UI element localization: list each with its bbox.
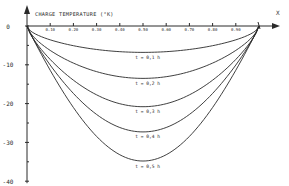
x-tick-label: 0.20 — [69, 27, 79, 32]
x-axis-label: X — [276, 9, 280, 16]
temperature-profile-chart: 0-10-20-30-400.100.200.300.400.500.600.7… — [0, 0, 289, 186]
x-tick-label: 0.50 — [138, 27, 148, 32]
curve-5 — [27, 26, 259, 161]
x-tick-label: 0.10 — [45, 27, 55, 32]
axes — [24, 5, 280, 183]
y-tick-label: -10 — [3, 61, 14, 68]
labels: 0-10-20-30-400.100.200.300.400.500.600.7… — [3, 9, 280, 185]
curve-label: t = 0,2 h — [135, 81, 160, 86]
x-tick-label: 0.70 — [185, 27, 195, 32]
y-tick-label: 0 — [6, 23, 10, 30]
curve-4 — [27, 26, 259, 132]
y-tick-label: -40 — [3, 178, 14, 185]
chart-title: CHARGE TEMPERATURE (°K) — [35, 11, 114, 17]
x-tick-label: 0.80 — [208, 27, 218, 32]
x-tick-label: 0.40 — [115, 27, 125, 32]
curve-label: t = 0,1 h — [135, 55, 160, 60]
x-axis-arrow-icon — [272, 23, 280, 29]
curve-label: t = 0,5 h — [135, 164, 160, 169]
curve-label: t = 0,3 h — [135, 109, 160, 114]
y-tick-label: -30 — [3, 139, 14, 146]
x-tick-label: 0.90 — [231, 27, 241, 32]
curve-label: t = 0,4 h — [135, 134, 160, 139]
x-tick-label: 0.60 — [161, 27, 171, 32]
y-axis-arrow-icon — [24, 5, 30, 14]
x-tick-label: 0.30 — [92, 27, 102, 32]
y-tick-label: -20 — [3, 100, 14, 107]
curves — [27, 26, 259, 161]
curve-3 — [27, 26, 259, 107]
